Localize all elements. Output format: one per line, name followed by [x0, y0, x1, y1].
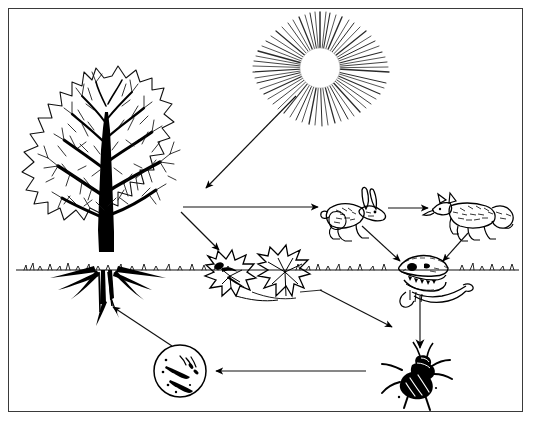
- rabbit-icon: [321, 187, 386, 241]
- arrow-fox-to-skull: [443, 233, 468, 261]
- ecosystem-diagram: [0, 0, 535, 426]
- arrow-leaves-to-beetle: [320, 290, 392, 327]
- tree-icon: [22, 66, 180, 326]
- arrow-bacteria-to-tree: [113, 307, 172, 346]
- beetle-icon: [382, 342, 452, 410]
- arrow-tree-to-leaves: [181, 212, 219, 250]
- arrow-rabbit-to-skull: [362, 226, 400, 261]
- fox-icon: [423, 193, 513, 241]
- sun-icon: [253, 12, 389, 126]
- skull-icon: [399, 255, 473, 307]
- diagram-canvas: Sun Tree Rabbit Fox Fallen leaves Animal…: [0, 0, 535, 426]
- arrow-sun-to-tree: [206, 96, 296, 188]
- bacteria-icon: [154, 345, 206, 397]
- leaves-icon: [205, 245, 322, 301]
